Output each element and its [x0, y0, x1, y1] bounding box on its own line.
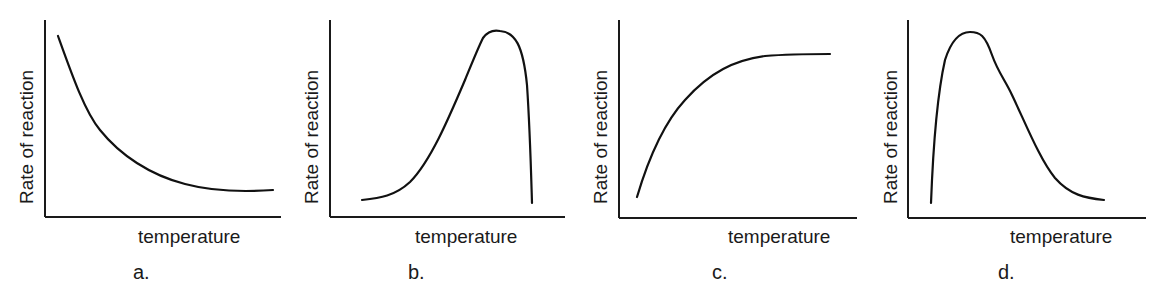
figure-four-graphs: Rate of reaction temperature a. Rate of … [0, 0, 1153, 301]
rate-curve [637, 54, 830, 197]
panel-label-d: d. [998, 261, 1015, 283]
y-axis-label: Rate of reaction [880, 70, 901, 204]
graph-d: Rate of reaction temperature d. [880, 20, 1146, 283]
panel-label-a: a. [133, 261, 150, 283]
y-axis-label: Rate of reaction [16, 70, 37, 204]
rate-curve [931, 32, 1104, 203]
rate-curve [362, 31, 532, 203]
panel-label-b: b. [408, 261, 425, 283]
graph-a: Rate of reaction temperature a. [16, 20, 281, 283]
y-axis-label: Rate of reaction [590, 70, 611, 204]
x-axis-label: temperature [138, 226, 240, 247]
rate-curve [58, 36, 273, 191]
x-axis-label: temperature [728, 226, 830, 247]
graph-c: Rate of reaction temperature c. [590, 20, 857, 283]
graph-b: Rate of reaction temperature b. [301, 20, 565, 283]
y-axis-label: Rate of reaction [301, 70, 322, 204]
x-axis-label: temperature [1010, 226, 1112, 247]
x-axis-label: temperature [415, 226, 517, 247]
panel-label-c: c. [712, 261, 728, 283]
